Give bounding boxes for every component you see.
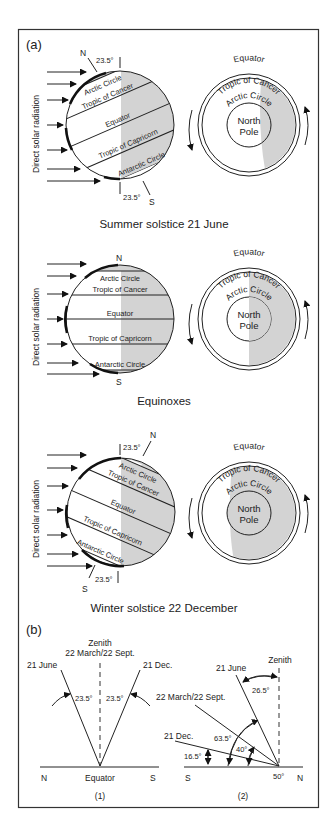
angle-left-label: 23.5° (75, 694, 93, 703)
rotation-arrow-left (189, 110, 192, 150)
north-label: N (150, 430, 156, 440)
equinox-label: 22 March/22 Sept. (156, 692, 225, 702)
summer-caption: Summer solstice 21 June (99, 218, 228, 230)
panel-a-label: (a) (26, 37, 42, 52)
dec-ray (100, 670, 140, 766)
zenith-label: Zenith (268, 655, 292, 665)
south-label: S (150, 773, 156, 783)
panel-b-label: (b) (26, 622, 42, 637)
north-label: N (116, 253, 122, 263)
north-pole-label-2: Pole (239, 320, 258, 331)
polar-equator-label: Equator (232, 52, 266, 64)
latitude-label: 50° (273, 772, 284, 781)
angle-zenith-june-label: 26.5° (252, 686, 270, 695)
south-label: S (149, 197, 155, 207)
angle-june-label: 63.5° (214, 734, 232, 743)
tilt-bottom-label: 23.5° (123, 193, 141, 202)
equinox-caption: Equinoxes (137, 395, 191, 407)
south-label: S (185, 773, 191, 783)
solar-radiation-figure: (a) Arctic Circle Tropic of Cancer Equat… (0, 0, 329, 833)
june-ray (61, 670, 100, 766)
north-label: N (297, 773, 303, 783)
direct-solar-radiation-label: Direct solar radiation (31, 480, 41, 558)
band-label-equator: Equator (107, 309, 134, 318)
equator-base-label: Equator (85, 773, 115, 783)
rotation-arrow-right (305, 107, 308, 145)
june-label: 21 June (216, 663, 247, 673)
band-label-tropic-capricorn: Tropic of Capricorn (88, 334, 152, 343)
north-pole-label-1: North (237, 503, 260, 514)
rotation-arrow-left (189, 498, 192, 538)
direct-solar-radiation-label: Direct solar radiation (31, 95, 41, 173)
equinox-label: 22 March/22 Sept. (65, 648, 134, 658)
sun-angle-diagram-equator: Zenith 22 March/22 Sept. 21 June 21 Dec.… (27, 638, 172, 801)
band-label-tropic-cancer: Tropic of Cancer (92, 285, 148, 294)
summer-solstice-globe: Arctic Circle Tropic of Cancer Equator T… (39, 37, 212, 213)
diagram-1-label: (1) (95, 791, 106, 801)
tilt-bottom-label: 23.5° (95, 575, 113, 584)
north-pole-label-2: Pole (239, 126, 258, 137)
summer-polar-view: Equator Tropic of Cancer Arctic Circle N… (189, 52, 310, 185)
band-label-arctic: Arctic Circle (100, 274, 140, 283)
north-pole-label-1: North (237, 115, 260, 126)
polar-equator-label: Equator (232, 440, 266, 452)
tilt-top-label: 23.5° (96, 56, 114, 65)
angle-dec-label: 16.5° (184, 752, 202, 761)
angle-equinox-label: 40° (236, 745, 247, 754)
diagram-2-label: (2) (238, 791, 249, 801)
equinox-polar-view: Equator Tropic of Cancer Arctic Circle N… (189, 246, 309, 370)
polar-equator-label: Equator (232, 246, 266, 258)
north-label: N (80, 48, 86, 58)
winter-polar-view: Equator Tropic of Cancer Arctic Circle N… (189, 440, 310, 570)
zenith-label: Zenith (88, 638, 112, 648)
north-pole-label-1: North (237, 309, 260, 320)
rotation-arrow-right (305, 301, 308, 339)
dec-label: 21 Dec. (143, 660, 172, 670)
south-label: S (116, 377, 122, 387)
band-label-antarctic: Antarctic Circle (95, 360, 145, 369)
tilt-top-label: 23.5° (123, 443, 141, 452)
rotation-arrow-right (305, 495, 308, 533)
dec-label: 21 Dec. (164, 731, 193, 741)
sun-angle-diagram-50n: Zenith 21 June 26.5° 22 March/22 Sept. 2… (156, 655, 303, 801)
direct-solar-radiation-label: Direct solar radiation (31, 288, 41, 366)
winter-caption: Winter solstice 22 December (91, 602, 238, 614)
north-label: N (41, 773, 47, 783)
north-pole-label-2: Pole (239, 514, 258, 525)
rotation-arrow-left (189, 304, 192, 344)
south-label: S (82, 584, 88, 594)
equinox-globe: Arctic Circle Tropic of Cancer Equator T… (60, 253, 190, 387)
angle-right-label: 23.5° (106, 694, 124, 703)
june-label: 21 June (27, 660, 58, 670)
